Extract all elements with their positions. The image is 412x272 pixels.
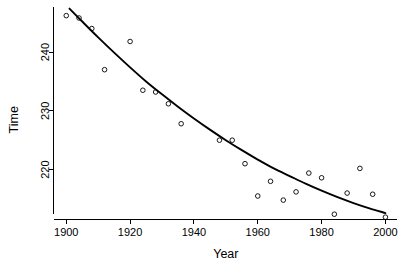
data-point <box>64 13 69 18</box>
fit-curve-line <box>69 9 385 213</box>
data-point <box>383 215 388 220</box>
data-point <box>294 190 299 195</box>
data-point <box>179 121 184 126</box>
x-tick-label: 1940 <box>182 226 206 238</box>
data-point <box>358 166 363 171</box>
y-axis-title: Time <box>7 106 21 133</box>
data-point <box>166 101 171 106</box>
data-point-group <box>64 13 388 219</box>
data-point <box>217 138 222 143</box>
x-tick-label: 1980 <box>309 226 333 238</box>
data-point <box>332 212 337 217</box>
x-tick-label: 1920 <box>118 226 142 238</box>
data-point <box>230 138 235 143</box>
y-tick-label: 220 <box>39 160 51 178</box>
data-point <box>141 88 146 93</box>
data-point <box>268 179 273 184</box>
x-tick-label: 2000 <box>373 226 397 238</box>
x-axis-title: Year <box>213 247 238 261</box>
data-point <box>243 161 248 166</box>
data-point <box>370 192 375 197</box>
data-point <box>102 67 107 72</box>
x-tick-label: 1960 <box>246 226 270 238</box>
data-point <box>307 171 312 176</box>
data-point <box>281 198 286 203</box>
scatter-plot-figure: 220230240190019201940196019802000YearTim… <box>0 0 412 272</box>
data-point <box>345 191 350 196</box>
data-point <box>128 39 133 44</box>
data-point <box>319 175 324 180</box>
plot-canvas: 220230240190019201940196019802000YearTim… <box>0 0 412 272</box>
y-tick-label: 230 <box>39 102 51 120</box>
y-tick-label: 240 <box>39 43 51 61</box>
data-point <box>255 194 260 199</box>
x-tick-label: 1900 <box>54 226 78 238</box>
